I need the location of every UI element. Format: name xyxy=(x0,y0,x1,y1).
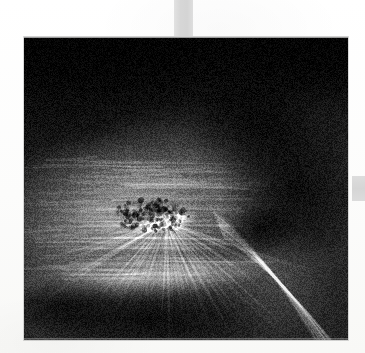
plate-image xyxy=(24,37,348,340)
right-register-block xyxy=(352,176,365,201)
scanned-page xyxy=(0,0,365,353)
photographic-plate xyxy=(24,37,348,340)
top-register-block xyxy=(174,0,193,36)
